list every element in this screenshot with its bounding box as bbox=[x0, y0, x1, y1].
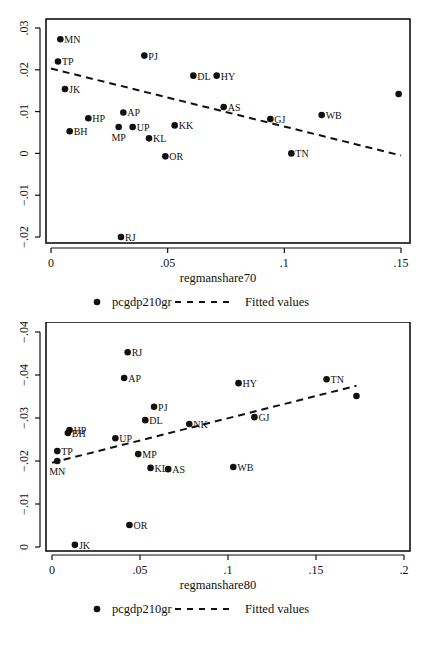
y-tick-label: .02 bbox=[17, 62, 31, 77]
marker-dot-icon bbox=[54, 458, 61, 465]
marker-dot-icon bbox=[72, 542, 79, 549]
point-label: AS bbox=[172, 464, 185, 475]
data-point: DL bbox=[190, 71, 211, 82]
data-point: RJ bbox=[124, 347, 142, 358]
data-point: MP bbox=[111, 124, 126, 143]
x-tick-label: .05 bbox=[133, 563, 148, 577]
marker-dot-icon bbox=[115, 124, 122, 131]
data-point: HY bbox=[235, 378, 257, 389]
x-tick-label: 0 bbox=[49, 563, 55, 577]
x-tick-label: .05 bbox=[160, 256, 175, 270]
legend: pcgdp210grFitted values bbox=[94, 295, 310, 309]
marker-dot-icon bbox=[171, 122, 178, 129]
marker-dot-icon bbox=[135, 451, 142, 458]
data-point: DL bbox=[142, 415, 163, 426]
data-point: HP bbox=[85, 113, 106, 124]
marker-dot-icon bbox=[129, 124, 136, 131]
marker-dot-icon bbox=[323, 376, 330, 383]
marker-dot-icon bbox=[213, 72, 220, 79]
point-label: JK bbox=[79, 540, 91, 551]
point-label: HY bbox=[221, 71, 235, 82]
point-label: TP bbox=[62, 56, 74, 67]
marker-dot-icon bbox=[124, 349, 131, 356]
legend-dot-icon bbox=[94, 606, 101, 613]
chart-regmanshare70: −.02−.010.01.02.030.05.1.15regmanshare70… bbox=[0, 0, 439, 322]
point-label: MN bbox=[49, 466, 65, 477]
data-point: KL bbox=[147, 463, 168, 474]
x-tick-label: 0 bbox=[48, 256, 54, 270]
point-label: TN bbox=[295, 148, 308, 159]
point-label: GJ bbox=[258, 412, 269, 423]
point-label: BH bbox=[74, 126, 88, 137]
point-label: GJ bbox=[274, 114, 285, 125]
marker-dot-icon bbox=[65, 430, 72, 437]
marker-dot-icon bbox=[55, 58, 62, 65]
x-axis: 0.05.1.15 bbox=[48, 248, 409, 270]
y-tick-label: 0 bbox=[17, 150, 31, 156]
chart-regmanshare80: 0−.01−.02−.03−.04−.040.05.1.15.2regmansh… bbox=[0, 322, 439, 645]
legend-label-series: pcgdp210gr bbox=[112, 602, 173, 616]
point-label: KL bbox=[153, 133, 166, 144]
point-label: WB bbox=[326, 110, 342, 121]
marker-dot-icon bbox=[112, 435, 119, 442]
x-axis-label: regmanshare70 bbox=[180, 271, 256, 285]
legend-label-fitted: Fitted values bbox=[245, 295, 309, 309]
y-tick-label: −.04 bbox=[17, 364, 31, 386]
x-axis-label: regmanshare80 bbox=[180, 578, 256, 592]
point-label: PJ bbox=[158, 402, 168, 413]
data-point: JK bbox=[62, 84, 81, 95]
data-point: GJ bbox=[251, 412, 270, 423]
legend-label-fitted: Fitted values bbox=[245, 602, 309, 616]
marker-dot-icon bbox=[54, 448, 61, 455]
marker-dot-icon bbox=[162, 153, 169, 160]
data-point: MN bbox=[49, 458, 65, 477]
plot-frame bbox=[46, 322, 410, 551]
point-label: MP bbox=[111, 132, 126, 143]
data-point: OR bbox=[126, 520, 148, 531]
marker-dot-icon bbox=[220, 104, 227, 111]
point-label: AP bbox=[127, 107, 140, 118]
data-point: UP bbox=[129, 122, 150, 133]
legend-dot-icon bbox=[94, 299, 101, 306]
point-label: NK bbox=[193, 419, 208, 430]
data-point: OR bbox=[162, 151, 184, 162]
point-label: OR bbox=[169, 151, 183, 162]
data-point: MN bbox=[57, 34, 80, 45]
data-point: HY bbox=[213, 71, 235, 82]
marker-dot-icon bbox=[62, 86, 69, 93]
marker-dot-icon bbox=[147, 465, 154, 472]
marker-dot-icon bbox=[165, 466, 172, 473]
data-point: TP bbox=[55, 56, 74, 67]
point-label: PJ bbox=[148, 51, 158, 62]
point-label: OR bbox=[133, 520, 147, 531]
point-label: HY bbox=[243, 378, 257, 389]
marker-dot-icon bbox=[141, 52, 148, 59]
data-point: RJ bbox=[118, 232, 136, 243]
data-point: GJ bbox=[267, 114, 286, 125]
point-label: RJ bbox=[125, 232, 136, 243]
point-label: TN bbox=[331, 374, 344, 385]
data-point: AS bbox=[220, 102, 240, 113]
data-point: UP bbox=[112, 433, 133, 444]
y-tick-label: −.02 bbox=[17, 226, 31, 248]
point-label: AP bbox=[128, 373, 141, 384]
marker-dot-icon bbox=[142, 417, 149, 424]
plot-frame bbox=[46, 19, 410, 243]
data-point: PJ bbox=[141, 51, 158, 62]
data-point: TP bbox=[54, 446, 73, 457]
marker-dot-icon bbox=[251, 414, 258, 421]
y-tick-label: .03 bbox=[17, 21, 31, 36]
marker-dot-icon bbox=[267, 116, 274, 123]
chart-svg-2: 0−.01−.02−.03−.04−.040.05.1.15.2regmansh… bbox=[0, 322, 439, 645]
marker-dot-icon bbox=[230, 464, 237, 471]
x-tick-label: .15 bbox=[394, 256, 409, 270]
point-label: UP bbox=[119, 433, 132, 444]
point-label: WB bbox=[237, 462, 253, 473]
marker-dot-icon bbox=[66, 128, 73, 135]
marker-dot-icon bbox=[126, 522, 133, 529]
marker-dot-icon bbox=[85, 115, 92, 122]
marker-dot-icon bbox=[121, 375, 128, 382]
data-point: NK bbox=[186, 419, 209, 430]
point-label: DL bbox=[149, 415, 162, 426]
data-point: WB bbox=[318, 110, 342, 121]
